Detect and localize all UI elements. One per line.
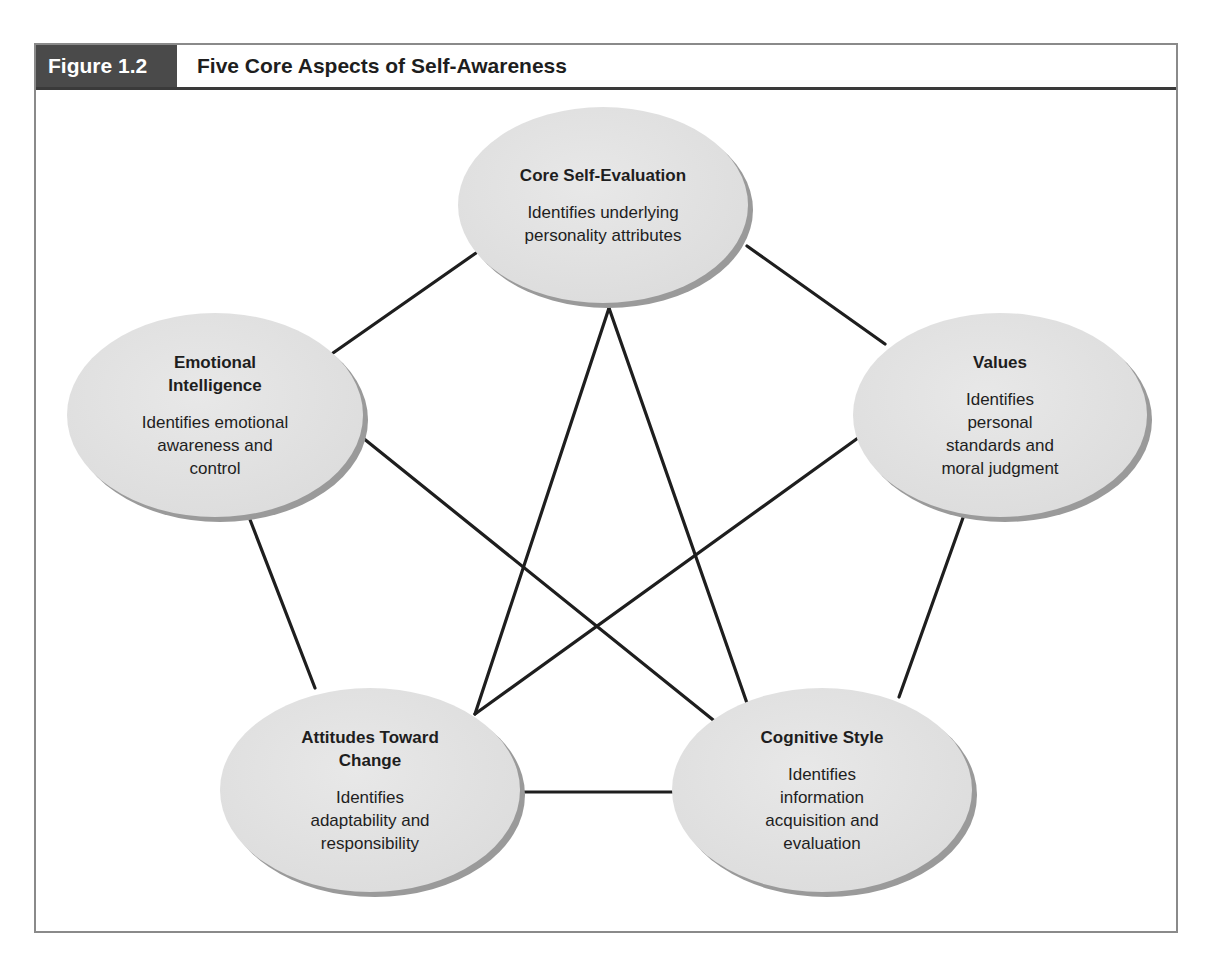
node-description-line: information (765, 786, 878, 809)
node-description-line: Identifies underlying (525, 201, 682, 224)
node-title: Core Self-Evaluation (520, 164, 686, 187)
node-description: Identifies personal standards and moral … (941, 388, 1058, 480)
node-values: Values Identifies personal standards and… (865, 330, 1135, 500)
connector-core-cognitive (609, 308, 763, 749)
node-description: Identifies adaptability and responsibili… (310, 786, 429, 855)
node-title: Emotional Intelligence (168, 351, 262, 397)
node-description-line: Identifies (310, 786, 429, 809)
node-description-line: personal (941, 411, 1058, 434)
node-title-line: Change (301, 749, 439, 772)
node-description-line: Identifies (765, 763, 878, 786)
connector-emotional-attitudes (249, 517, 315, 688)
node-description-line: awareness and (142, 434, 288, 457)
node-description: Identifies information acquisition and e… (765, 763, 878, 855)
node-description-line: evaluation (765, 832, 878, 855)
node-description: Identifies underlying personality attrib… (525, 201, 682, 247)
connector-values-cognitive (899, 515, 964, 697)
node-description: Identifies emotional awareness and contr… (142, 411, 288, 480)
node-title-line: Intelligence (168, 374, 262, 397)
node-description-line: standards and (941, 434, 1058, 457)
node-title: Attitudes Toward Change (301, 726, 439, 772)
node-title-line: Attitudes Toward (301, 726, 439, 749)
node-attitudes-toward-change: Attitudes Toward Change Identifies adapt… (230, 705, 510, 875)
node-cognitive-style: Cognitive Style Identifies information a… (682, 705, 962, 875)
node-title-line: Emotional (168, 351, 262, 374)
node-description-line: responsibility (310, 832, 429, 855)
node-description-line: control (142, 457, 288, 480)
node-description-line: personality attributes (525, 224, 682, 247)
node-description-line: acquisition and (765, 809, 878, 832)
node-description-line: Identifies emotional (142, 411, 288, 434)
node-description-line: Identifies (941, 388, 1058, 411)
node-emotional-intelligence: Emotional Intelligence Identifies emotio… (75, 330, 355, 500)
connector-core-attitudes (475, 308, 609, 714)
node-title: Values (973, 351, 1027, 374)
node-title: Cognitive Style (761, 726, 884, 749)
node-core-self-evaluation: Core Self-Evaluation Identifies underlyi… (463, 140, 743, 270)
node-description-line: adaptability and (310, 809, 429, 832)
node-description-line: moral judgment (941, 457, 1058, 480)
